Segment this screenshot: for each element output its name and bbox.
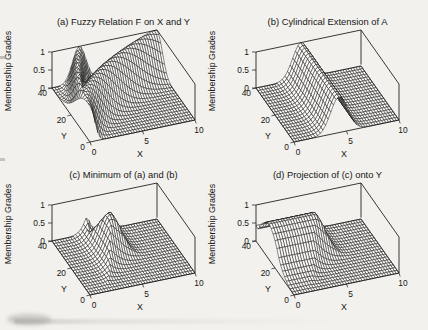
panel-d: 05100204000.51XYMembership Grades(d) Pro… bbox=[207, 169, 408, 313]
z-tick-label: 0 bbox=[244, 83, 249, 93]
y-tick-label: 20 bbox=[261, 268, 271, 278]
panel-c: 05100204000.51XYMembership Grades(c) Min… bbox=[3, 169, 204, 313]
panel-b: 05100204000.51XYMembership Grades(b) Cyl… bbox=[207, 16, 408, 160]
z-tick-label: 0.5 bbox=[33, 218, 45, 228]
x-tick-label: 5 bbox=[348, 289, 353, 299]
y-tick-label: 20 bbox=[57, 115, 67, 125]
z-tick-label: 1 bbox=[244, 200, 249, 210]
mesh-surface bbox=[52, 212, 195, 295]
x-axis-label: X bbox=[341, 149, 347, 159]
y-tick-label: 0 bbox=[80, 142, 85, 152]
z-tick-label: 0 bbox=[40, 236, 45, 246]
mesh-surface bbox=[52, 30, 195, 139]
z-tick-label: 0 bbox=[244, 236, 249, 246]
y-tick-label: 0 bbox=[284, 295, 289, 305]
x-tick-label: 10 bbox=[194, 125, 204, 135]
scanned-figure-page: { "figure": { "kind": "scanned textbook … bbox=[0, 0, 428, 330]
y-axis-label: Y bbox=[265, 131, 271, 141]
panel-title: (d) Projection of (c) onto Y bbox=[273, 169, 383, 180]
x-tick-label: 0 bbox=[296, 300, 301, 310]
z-tick-label: 0.5 bbox=[237, 65, 249, 75]
z-axis-label: Membership Grades bbox=[3, 30, 13, 111]
y-axis-label: Y bbox=[61, 131, 67, 141]
mesh-surface bbox=[256, 212, 399, 295]
x-tick-label: 5 bbox=[144, 289, 149, 299]
z-tick-label: 1 bbox=[40, 200, 45, 210]
mesh-surface bbox=[256, 43, 399, 142]
x-tick-label: 0 bbox=[296, 147, 301, 157]
fuzzy-relations-figure: 05100204000.51XYMembership Grades(a) Fuz… bbox=[0, 0, 428, 330]
z-tick-label: 0.5 bbox=[237, 218, 249, 228]
z-axis-label: Membership Grades bbox=[207, 30, 217, 111]
x-tick-label: 10 bbox=[194, 278, 204, 288]
panel-title: (b) Cylindrical Extension of A bbox=[268, 16, 389, 27]
x-axis-label: X bbox=[137, 302, 143, 312]
z-tick-label: 1 bbox=[40, 47, 45, 57]
x-tick-label: 5 bbox=[144, 136, 149, 146]
y-tick-label: 20 bbox=[57, 268, 67, 278]
z-tick-label: 0.5 bbox=[33, 65, 45, 75]
z-tick-label: 0 bbox=[40, 83, 45, 93]
z-axis-label: Membership Grades bbox=[207, 183, 217, 264]
x-tick-label: 5 bbox=[348, 136, 353, 146]
panel-a: 05100204000.51XYMembership Grades(a) Fuz… bbox=[3, 16, 204, 160]
x-axis-label: X bbox=[341, 302, 347, 312]
x-tick-label: 0 bbox=[92, 300, 97, 310]
x-tick-label: 10 bbox=[398, 125, 408, 135]
z-axis-label: Membership Grades bbox=[3, 183, 13, 264]
y-axis-label: Y bbox=[61, 284, 67, 294]
y-tick-label: 0 bbox=[80, 295, 85, 305]
y-tick-label: 20 bbox=[261, 115, 271, 125]
panel-title: (c) Minimum of (a) and (b) bbox=[69, 169, 177, 180]
x-tick-label: 0 bbox=[92, 147, 97, 157]
panel-title: (a) Fuzzy Relation F on X and Y bbox=[57, 16, 191, 27]
z-tick-label: 1 bbox=[244, 47, 249, 57]
x-axis-label: X bbox=[137, 149, 143, 159]
y-tick-label: 0 bbox=[284, 142, 289, 152]
y-axis-label: Y bbox=[265, 284, 271, 294]
x-tick-label: 10 bbox=[398, 278, 408, 288]
